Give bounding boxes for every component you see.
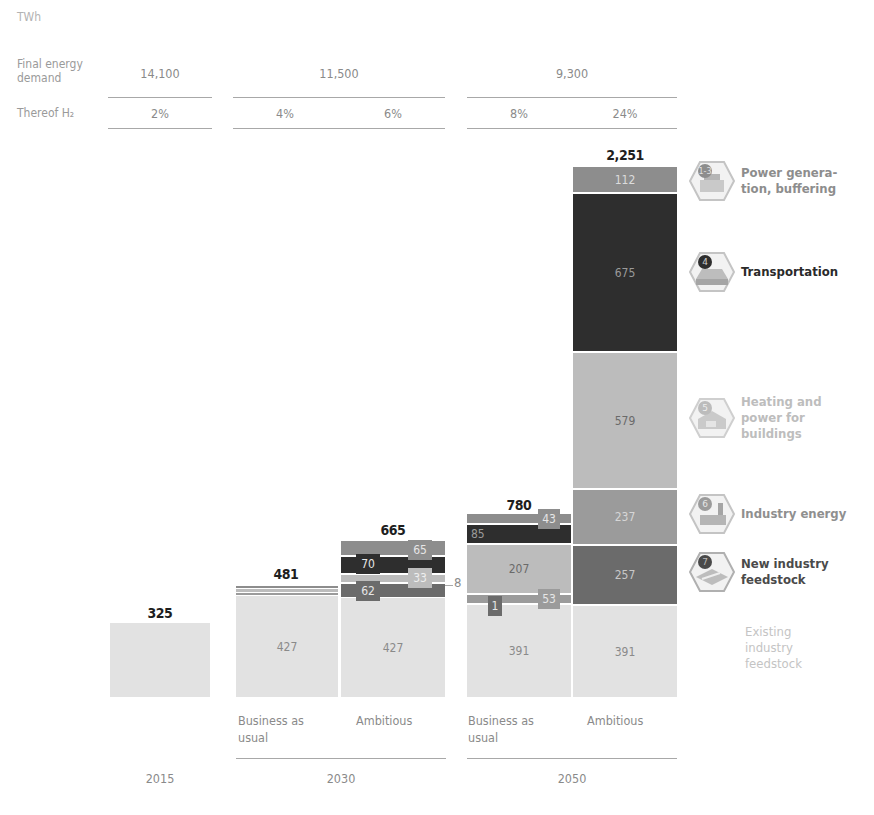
category-label-line1: Business as	[468, 712, 534, 729]
fed-2015: 14,100	[108, 66, 212, 81]
power-plant-icon: 1-3	[688, 160, 736, 202]
legend-label-line1: Industry energy	[741, 506, 846, 522]
h2-2030-amb: 6%	[341, 106, 445, 121]
vehicle-icon: 4	[688, 251, 736, 293]
h2-2015: 2%	[108, 106, 212, 121]
callout-line	[445, 585, 453, 586]
divider	[467, 758, 677, 759]
divider	[108, 97, 212, 98]
final-energy-demand-label-line2: demand	[17, 71, 83, 85]
h2-2050-amb: 24%	[573, 106, 677, 121]
pipeline-icon: 7	[688, 551, 736, 593]
divider	[236, 758, 446, 759]
bar-2050-amb-industry: 237	[573, 490, 677, 544]
unit-label: TWh	[17, 10, 41, 24]
bar-2050-bau-transport-label: 85	[471, 525, 511, 543]
year-2015: 2015	[110, 771, 210, 786]
factory-icon: 6	[688, 493, 736, 535]
building-icon: 5	[688, 397, 736, 439]
bar-2050-bau-existing-label: 391	[467, 605, 571, 697]
bar-2050-amb-new-feedstock: 257	[573, 546, 677, 604]
divider	[467, 128, 677, 129]
legend-label-line2: tion, buffering	[741, 181, 837, 197]
category-label-line2: usual	[468, 729, 534, 746]
bar-2050-bau-existing-feedstock: 391	[467, 605, 571, 697]
year-2050: 2050	[467, 771, 677, 786]
legend-item-power-generation: 1-3 Power genera- tion, buffering	[688, 160, 837, 202]
total-2050-amb: 2,251	[573, 147, 677, 163]
bar-2015-existing-feedstock	[110, 623, 210, 697]
category-2050-amb: Ambitious	[587, 712, 643, 729]
legend-label-line2: power for	[741, 410, 822, 426]
svg-text:4: 4	[702, 257, 708, 267]
svg-text:6: 6	[702, 499, 708, 509]
divider	[233, 128, 445, 129]
svg-text:5: 5	[702, 403, 708, 413]
svg-text:1-3: 1-3	[698, 167, 711, 176]
tag-2050-bau-power: 43	[538, 509, 560, 529]
bar-2030-bau-buildings	[236, 589, 338, 592]
svg-text:7: 7	[702, 557, 708, 567]
final-energy-demand-label: Final energy demand	[17, 57, 83, 85]
bar-2050-amb-transport: 675	[573, 194, 677, 351]
final-energy-demand-label-line1: Final energy	[17, 57, 83, 71]
legend-label-line2: feedstock	[741, 572, 829, 588]
tag-2030-amb-buildings: 33	[408, 568, 432, 588]
category-label-line2: usual	[238, 729, 304, 746]
legend-item-new-industry-feedstock: 7 New industry feedstock	[688, 551, 829, 593]
tag-2050-bau-industry: 53	[538, 589, 560, 609]
total-2015: 325	[110, 605, 210, 621]
bar-2030-amb-existing-feedstock: 427	[341, 598, 445, 697]
legend-item-industry-energy: 6 Industry energy	[688, 493, 846, 535]
bar-2050-amb-industry-label: 237	[573, 490, 677, 544]
h2-2050-bau: 8%	[467, 106, 571, 121]
legend-item-transportation: 4 Transportation	[688, 251, 838, 293]
legend-item-buildings: 5 Heating and power for buildings	[688, 394, 822, 442]
category-label-line1: Business as	[238, 712, 304, 729]
tag-2030-amb-power: 65	[408, 540, 432, 560]
legend-item-existing-industry-feedstock: Existing industry feedstock	[745, 624, 802, 672]
category-2030-bau: Business as usual	[238, 712, 304, 746]
bar-2050-amb-power-label: 112	[573, 167, 677, 192]
category-2030-amb: Ambitious	[356, 712, 412, 729]
bar-2050-bau-buildings: 207	[467, 545, 571, 593]
legend-label-line1: Power genera-	[741, 165, 837, 181]
legend-label-line2: industry	[745, 640, 802, 656]
bar-2050-amb-existing-feedstock: 391	[573, 606, 677, 697]
divider	[467, 97, 677, 98]
bar-2030-bau-existing-feedstock: 427	[236, 596, 338, 697]
bar-2050-amb-new-feedstock-label: 257	[573, 546, 677, 604]
total-2030-bau: 481	[236, 566, 336, 582]
legend-label-line1: Heating and	[741, 394, 822, 410]
total-2030-amb: 665	[341, 522, 445, 538]
legend-label-line1: Transportation	[741, 264, 838, 280]
fed-2050: 9,300	[467, 66, 677, 81]
tag-2030-amb-new-feedstock: 62	[356, 581, 380, 601]
bar-2050-amb-transport-label: 675	[573, 194, 677, 351]
legend-label-line1: New industry	[741, 556, 829, 572]
category-2050-bau: Business as usual	[468, 712, 534, 746]
callout-2030-amb-industry: 8	[454, 575, 461, 590]
legend-label-line1: Existing	[745, 624, 802, 640]
bar-2050-bau-buildings-label: 207	[467, 545, 571, 593]
divider	[233, 97, 445, 98]
legend-label-line3: feedstock	[745, 656, 802, 672]
legend-label-line3: buildings	[741, 426, 822, 442]
fed-2030: 11,500	[233, 66, 445, 81]
bar-2050-amb-existing-label: 391	[573, 606, 677, 697]
bar-2030-bau-power	[236, 586, 338, 588]
bar-2050-amb-power: 112	[573, 167, 677, 192]
divider	[108, 128, 212, 129]
bar-2030-amb-existing-label: 427	[341, 598, 445, 697]
year-2030: 2030	[236, 771, 446, 786]
bar-2030-bau-existing-label: 427	[236, 596, 338, 697]
tag-2030-amb-transport: 70	[356, 554, 380, 574]
h2-2030-bau: 4%	[233, 106, 337, 121]
bar-2030-bau-industry	[236, 593, 338, 595]
tag-2050-bau-new-feedstock: 1	[488, 596, 502, 616]
bar-2050-amb-buildings: 579	[573, 353, 677, 488]
bar-2050-amb-buildings-label: 579	[573, 353, 677, 488]
thereof-h2-label: Thereof H₂	[17, 106, 74, 120]
